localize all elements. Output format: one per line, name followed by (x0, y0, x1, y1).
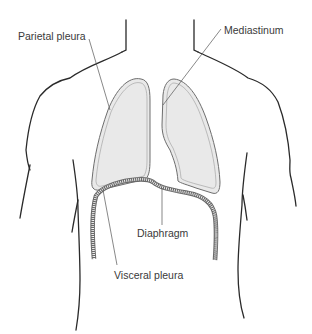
right-lung (162, 79, 220, 193)
leader-visceral-pleura (103, 190, 117, 265)
label-visceral-pleura: Visceral pleura (114, 269, 183, 281)
label-mediastinum: Mediastinum (224, 24, 284, 36)
thorax-illustration (0, 0, 312, 334)
diaphragm-band (93, 179, 216, 260)
pleura-diagram: Parietal pleura Mediastinum Diaphragm Vi… (0, 0, 312, 334)
body-outline (20, 20, 296, 330)
label-diaphragm: Diaphragm (137, 227, 188, 239)
left-lung (92, 79, 150, 191)
leader-parietal-pleura (89, 39, 110, 110)
label-parietal-pleura: Parietal pleura (18, 30, 86, 42)
